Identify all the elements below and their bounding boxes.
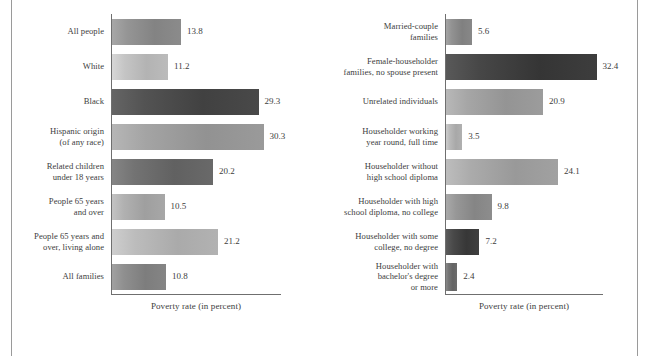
bar-value-label: 7.2 [485, 237, 496, 246]
category-label-line: People 65 years and [12, 231, 104, 242]
bar-track: 29.3 [111, 84, 322, 119]
bar-track: 30.3 [111, 119, 322, 154]
bar [112, 124, 264, 150]
bar-track: 24.1 [445, 154, 636, 189]
bar-value-label: 10.8 [172, 272, 188, 281]
category-label: Householder with somecollege, no degree [330, 231, 445, 252]
bar-value-label: 10.5 [171, 202, 187, 211]
left-axis-title: Poverty rate (in percent) [111, 301, 281, 311]
bar-row: All families10.8 [12, 259, 322, 294]
category-label-line: bachelor's degree [330, 271, 438, 282]
category-label-line: and over [12, 207, 104, 218]
category-label: Related childrenunder 18 years [12, 161, 111, 182]
right-chart-panel: Married-couplefamilies5.6Female-househol… [330, 0, 636, 356]
poverty-rate-figure: All people13.8White11.2Black29.3Hispanic… [0, 0, 652, 356]
bar-value-label: 5.6 [478, 27, 489, 36]
bar-row: Related childrenunder 18 years20.2 [12, 154, 322, 189]
bar-row: Unrelated individuals20.9 [330, 84, 636, 119]
bar-row: Householder workingyear round, full time… [330, 119, 636, 154]
bar-row: Householder withouthigh school diploma24… [330, 154, 636, 189]
category-label-line: All people [12, 26, 104, 37]
bar [446, 194, 492, 220]
bar-value-label: 13.8 [187, 27, 203, 36]
bar-value-label: 9.8 [498, 202, 509, 211]
category-label: Householder withbachelor's degreeor more [330, 261, 445, 293]
bar [112, 89, 259, 115]
bar-row: White11.2 [12, 49, 322, 84]
bar-value-label: 32.4 [603, 62, 619, 71]
bar-track: 20.2 [111, 154, 322, 189]
left-plot-area: All people13.8White11.2Black29.3Hispanic… [12, 14, 322, 356]
bar-track: 32.4 [445, 49, 636, 84]
bar-track: 5.6 [445, 14, 636, 49]
category-label: Hispanic origin(of any race) [12, 126, 111, 147]
bar-track: 20.9 [445, 84, 636, 119]
bar-value-label: 20.2 [219, 167, 235, 176]
category-label: People 65 yearsand over [12, 196, 111, 217]
category-label: Householder withouthigh school diploma [330, 161, 445, 182]
bar [446, 124, 462, 150]
bar [112, 194, 165, 220]
category-label-line: families [330, 32, 438, 43]
bar-value-label: 11.2 [174, 62, 189, 71]
bar [446, 19, 472, 45]
bar-value-label: 30.3 [270, 132, 286, 141]
category-label-line: Hispanic origin [12, 126, 104, 137]
bar-row: All people13.8 [12, 14, 322, 49]
bar [446, 89, 543, 115]
category-label: Unrelated individuals [330, 96, 445, 107]
bar-row: Female-householderfamilies, no spouse pr… [330, 49, 636, 84]
category-label-line: Black [12, 96, 104, 107]
bar-value-label: 20.9 [549, 97, 565, 106]
bar-track: 2.4 [445, 259, 636, 294]
category-label-line: Householder with some [330, 231, 438, 242]
bar [112, 159, 213, 185]
right-axis: Poverty rate (in percent) [330, 294, 636, 311]
category-label: Married-couplefamilies [330, 21, 445, 42]
left-bar-rows: All people13.8White11.2Black29.3Hispanic… [12, 14, 322, 294]
bar-value-label: 29.3 [265, 97, 281, 106]
bar-value-label: 2.4 [463, 272, 474, 281]
bar-value-label: 24.1 [564, 167, 580, 176]
bar-row: People 65 yearsand over10.5 [12, 189, 322, 224]
bar [112, 19, 181, 45]
category-label-line: Unrelated individuals [330, 96, 438, 107]
category-label: Householder with highschool diploma, no … [330, 196, 445, 217]
category-label-line: White [12, 61, 104, 72]
category-label: Female-householderfamilies, no spouse pr… [330, 56, 445, 77]
bar-value-label: 3.5 [468, 132, 479, 141]
bar [446, 159, 558, 185]
category-label-line: year round, full time [330, 137, 438, 148]
bar-row: Householder with highschool diploma, no … [330, 189, 636, 224]
bar [446, 229, 479, 255]
category-label-line: high school diploma [330, 172, 438, 183]
category-label-line: families, no spouse present [330, 67, 438, 78]
bar-track: 21.2 [111, 224, 322, 259]
category-label: White [12, 61, 111, 72]
bar-row: People 65 years andover, living alone21.… [12, 224, 322, 259]
bar-row: Married-couplefamilies5.6 [330, 14, 636, 49]
category-label-line: Female-householder [330, 56, 438, 67]
right-axis-line [445, 294, 603, 295]
category-label-line: under 18 years [12, 172, 104, 183]
category-label-line: Related children [12, 161, 104, 172]
category-label: People 65 years andover, living alone [12, 231, 111, 252]
bar-track: 10.8 [111, 259, 322, 294]
bar-track: 9.8 [445, 189, 636, 224]
category-label: All families [12, 271, 111, 282]
bar [112, 229, 218, 255]
category-label-line: over, living alone [12, 242, 104, 253]
bar-track: 7.2 [445, 224, 636, 259]
category-label: Householder workingyear round, full time [330, 126, 445, 147]
bar-row: Black29.3 [12, 84, 322, 119]
figure-right-border [637, 0, 638, 356]
category-label-line: school diploma, no college [330, 207, 438, 218]
bar-row: Householder withbachelor's degreeor more… [330, 259, 636, 294]
bar-row: Householder with somecollege, no degree7… [330, 224, 636, 259]
bar-track: 10.5 [111, 189, 322, 224]
category-label-line: Householder without [330, 161, 438, 172]
bar-track: 13.8 [111, 14, 322, 49]
bar [112, 264, 166, 290]
category-label: Black [12, 96, 111, 107]
left-axis-line [111, 294, 281, 295]
